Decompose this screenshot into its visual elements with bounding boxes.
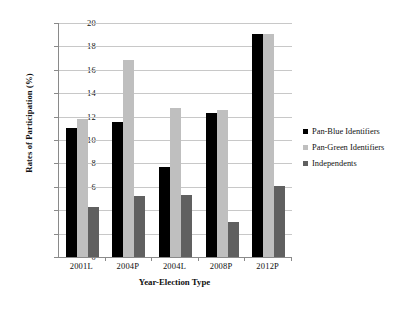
x-axis-title: Year-Election Type bbox=[58, 277, 291, 287]
bar bbox=[77, 119, 88, 257]
bar bbox=[134, 196, 145, 257]
bar-group bbox=[152, 23, 199, 257]
legend-label: Independents bbox=[312, 159, 357, 168]
bar bbox=[88, 207, 99, 257]
legend-swatch bbox=[303, 129, 308, 134]
legend-item: Pan-Green Identifiers bbox=[303, 143, 384, 152]
y-axis-title: Rates of Participation (%) bbox=[24, 0, 34, 248]
bar bbox=[217, 110, 228, 257]
bar bbox=[181, 195, 192, 257]
legend-item: Independents bbox=[303, 159, 384, 168]
legend-label: Pan-Green Identifiers bbox=[312, 143, 384, 152]
legend-swatch bbox=[303, 161, 308, 166]
bar-group bbox=[199, 23, 246, 257]
bar bbox=[263, 34, 274, 257]
bar bbox=[123, 60, 134, 257]
bar bbox=[66, 128, 77, 257]
bar bbox=[159, 167, 170, 257]
legend: Pan-Blue IdentifiersPan-Green Identifier… bbox=[303, 127, 384, 168]
bar bbox=[206, 113, 217, 257]
bar bbox=[252, 34, 263, 257]
bar bbox=[112, 122, 123, 257]
legend-swatch bbox=[303, 145, 308, 150]
plot-area bbox=[58, 23, 292, 258]
legend-item: Pan-Blue Identifiers bbox=[303, 127, 384, 136]
legend-label: Pan-Blue Identifiers bbox=[312, 127, 380, 136]
bar-group bbox=[59, 23, 106, 257]
bar bbox=[274, 186, 285, 257]
x-tick-mark bbox=[291, 257, 292, 261]
bar-group bbox=[245, 23, 292, 257]
bar-chart: 02468101214161820 Rates of Participation… bbox=[0, 0, 409, 309]
x-tick-label: 2012P bbox=[238, 261, 298, 271]
bar bbox=[170, 108, 181, 257]
bar-group bbox=[106, 23, 153, 257]
bar bbox=[228, 222, 239, 257]
